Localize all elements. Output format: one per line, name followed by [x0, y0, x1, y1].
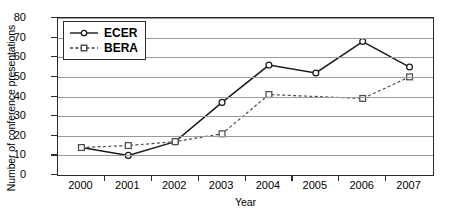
x-axis-tick-mark	[245, 176, 246, 181]
gridline	[58, 155, 433, 156]
x-axis-tick-mark	[291, 176, 292, 181]
chart-legend: ECER BERA	[63, 21, 146, 60]
legend-label-ecer: ECER	[104, 27, 137, 39]
data-point-marker	[219, 99, 225, 105]
y-axis-tick-label: 30	[0, 109, 26, 121]
legend-swatch-solid-circle-icon	[69, 26, 99, 40]
data-point-marker	[79, 145, 85, 151]
y-axis-tick-label: 20	[0, 129, 26, 141]
legend-swatch-dashed-square-icon	[69, 41, 99, 55]
gridline	[58, 77, 433, 78]
y-axis-tick-label: 70	[0, 31, 26, 43]
x-axis-tick-label: 2004	[242, 179, 294, 191]
legend-item-ecer: ECER	[69, 25, 138, 40]
x-axis-tick-mark	[385, 176, 386, 181]
data-point-marker	[407, 64, 413, 70]
data-point-marker	[172, 139, 178, 145]
gridline	[58, 116, 433, 117]
legend-item-bera: BERA	[69, 40, 138, 55]
gridline	[58, 136, 433, 137]
data-point-marker	[313, 70, 319, 76]
x-axis-tick-label: 2001	[101, 179, 153, 191]
x-axis-tick-label: 2007	[383, 179, 435, 191]
x-axis-tick-mark	[151, 176, 152, 181]
y-axis-tick-label: 10	[0, 148, 26, 160]
data-point-marker	[360, 39, 366, 45]
data-point-marker	[125, 143, 131, 149]
gridline	[58, 97, 433, 98]
x-axis-tick-mark	[104, 176, 105, 181]
legend-label-bera: BERA	[104, 42, 138, 54]
y-axis-tick-label: 60	[0, 50, 26, 62]
x-axis-title: Year	[57, 196, 434, 208]
series-line	[81, 77, 409, 148]
x-axis-tick-mark	[198, 176, 199, 181]
series-bera	[79, 74, 413, 150]
line-chart-figure: Number of conference presentations Year …	[0, 0, 464, 216]
y-axis-tick-label: 80	[0, 11, 26, 23]
x-axis-tick-label: 2000	[54, 179, 106, 191]
y-axis-tick-label: 50	[0, 70, 26, 82]
gridline	[58, 18, 433, 19]
x-axis-tick-label: 2003	[195, 179, 247, 191]
x-axis-tick-label: 2005	[289, 179, 341, 191]
x-axis-tick-mark	[338, 176, 339, 181]
y-axis-tick-label: 40	[0, 90, 26, 102]
data-point-marker	[266, 62, 272, 68]
x-axis-tick-label: 2006	[336, 179, 388, 191]
x-axis-tick-label: 2002	[148, 179, 200, 191]
y-axis-tick-label: 0	[0, 168, 26, 180]
